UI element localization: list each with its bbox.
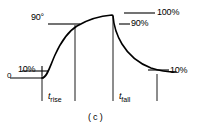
level-label-100: 100%: [157, 8, 179, 17]
level-label-zero: 0: [7, 72, 11, 80]
level-label-90-left: 90°: [31, 13, 44, 22]
t-rise-label: trise: [48, 92, 62, 103]
t-fall-label: tfall: [119, 92, 130, 103]
level-label-90-right: 90%: [131, 19, 148, 28]
level-label-10-right: 10%: [170, 66, 187, 75]
level-label-10-left: 10%: [18, 65, 35, 74]
t-fall-subscript: fall: [121, 96, 130, 103]
pulse-waveform-figure: 90° 100% 90% 10% 0 10% trise tfall ( c ): [0, 0, 197, 131]
figure-caption: ( c ): [88, 113, 103, 122]
t-rise-subscript: rise: [50, 96, 61, 103]
